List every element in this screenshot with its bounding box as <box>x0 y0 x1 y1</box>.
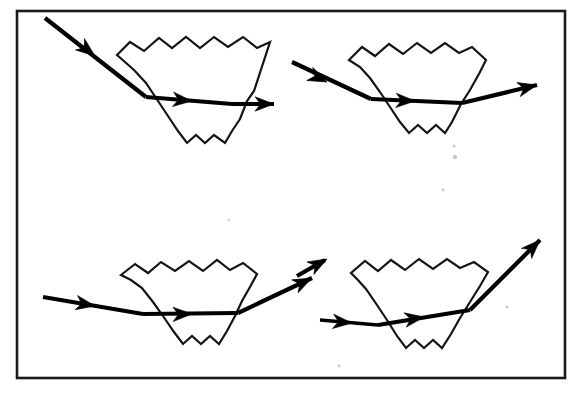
scan-specks <box>228 144 509 367</box>
scan-speck <box>338 365 341 368</box>
prism-outline-top-right <box>349 43 486 133</box>
clipped-incident-ray-arrowhead-bottom-right <box>307 253 331 275</box>
prism-outline-bottom-left <box>121 260 257 344</box>
scan-speck <box>505 305 508 308</box>
incident-ray-top-left <box>45 18 146 97</box>
scan-speck <box>453 155 457 159</box>
ray-diagram-figure <box>0 0 580 395</box>
prism-outline-bottom-right <box>351 259 488 348</box>
scan-speck <box>452 144 455 147</box>
panel-top-right <box>292 43 539 133</box>
exit-ray-bottom-right <box>470 240 540 310</box>
internal-ray-top-right <box>371 99 462 103</box>
scan-speck <box>228 219 230 221</box>
panel-top-left <box>45 18 274 143</box>
panel-bottom-right <box>297 235 545 348</box>
scan-speck <box>442 189 445 192</box>
panel-bottom-left <box>43 260 315 344</box>
figure-canvas <box>0 0 580 395</box>
